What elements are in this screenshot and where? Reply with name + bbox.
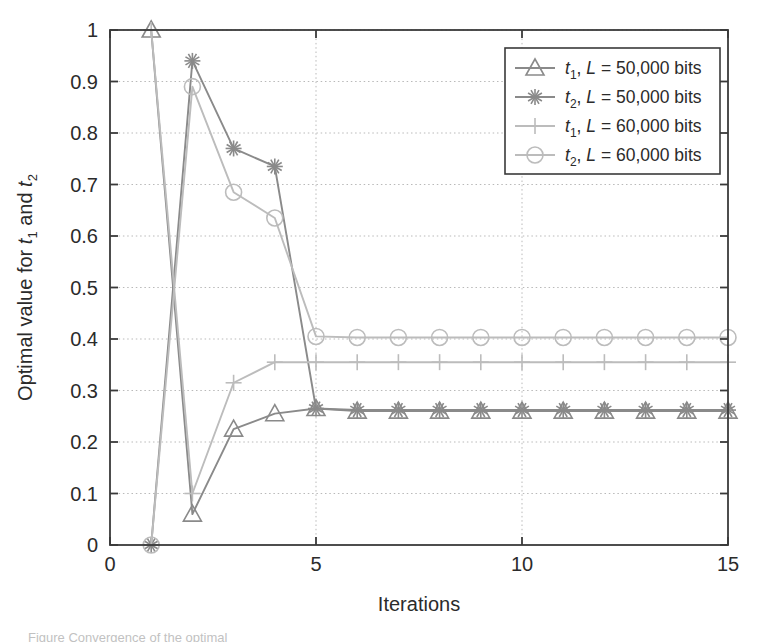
- x-tick-label: 5: [310, 553, 321, 575]
- x-tick-label: 15: [717, 553, 739, 575]
- y-axis-title: Optimal value for t1 and t2: [14, 174, 40, 401]
- y-tick-label: 0.9: [70, 71, 98, 93]
- y-tick-label: 0.5: [70, 277, 98, 299]
- y-tick-label: 1: [87, 19, 98, 41]
- y-tick-label: 0.2: [70, 431, 98, 453]
- line-chart: 00.10.20.30.40.50.60.70.80.91051015Itera…: [0, 0, 769, 642]
- y-tick-label: 0.3: [70, 380, 98, 402]
- y-tick-label: 0.4: [70, 328, 98, 350]
- x-tick-label: 0: [104, 553, 115, 575]
- x-axis-title: Iterations: [378, 593, 460, 615]
- y-tick-label: 0.8: [70, 122, 98, 144]
- y-tick-label: 0.6: [70, 225, 98, 247]
- y-tick-label: 0.7: [70, 174, 98, 196]
- figure-caption-partial: Figure Convergence of the optimal: [28, 630, 448, 642]
- y-tick-label: 0.1: [70, 483, 98, 505]
- y-tick-label: 0: [87, 534, 98, 556]
- x-tick-label: 10: [511, 553, 533, 575]
- figure-container: 00.10.20.30.40.50.60.70.80.91051015Itera…: [0, 0, 769, 642]
- legend[interactable]: t1, L = 50,000 bitst2, L = 50,000 bitst1…: [505, 48, 720, 174]
